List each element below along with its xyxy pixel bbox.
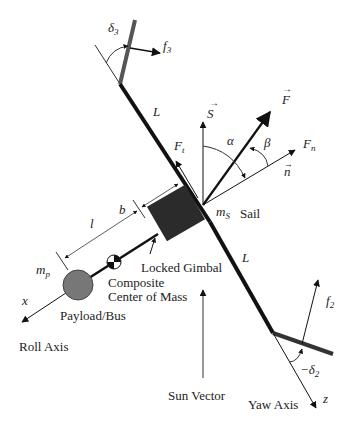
locked-gimbal-label: Locked Gimbal <box>141 260 223 275</box>
b-tick-line <box>133 200 145 218</box>
locked-gimbal-pointer <box>150 238 155 254</box>
ft-label: Ft <box>173 138 185 155</box>
s-vector-label: S <box>207 106 214 121</box>
fn-vector-arrow <box>203 150 295 205</box>
payload-bus-mass <box>63 270 93 300</box>
beta-arc <box>250 148 268 166</box>
composite-label-line2: Center of Mass <box>108 289 187 304</box>
sun-vector-label: Sun Vector <box>168 388 226 403</box>
fn-label: Fn <box>302 136 316 153</box>
b-label: b <box>119 202 126 217</box>
l-dimension-arrow <box>65 211 137 258</box>
f2-label: f2 <box>326 293 335 310</box>
delta3-label: δ3 <box>108 20 119 37</box>
f-vector-overarrow: → <box>282 83 292 94</box>
composite-label-line1: Composite <box>108 275 165 290</box>
l-lower-label: L <box>241 250 249 265</box>
sail-dynamics-diagram: δ3 f3 L S → F → Ft α β Fn n → b l mS Sai… <box>0 0 352 424</box>
yaw-axis-label: Yaw Axis <box>248 397 298 412</box>
locked-gimbal-block <box>147 185 205 242</box>
neg-delta2-label: −δ2 <box>300 362 320 379</box>
l-tick-line <box>56 252 68 270</box>
lower-control-vane <box>273 333 333 354</box>
z-axis-label: z <box>322 391 328 406</box>
s-vector-overarrow: → <box>209 97 219 108</box>
beta-label: β <box>263 135 271 150</box>
n-vector-overarrow: → <box>284 159 293 169</box>
composite-center-of-mass-icon <box>107 255 121 269</box>
f-vector-label: F <box>281 92 291 107</box>
mp-label: mp <box>36 262 50 279</box>
roll-axis-label: Roll Axis <box>19 339 69 354</box>
f3-label: f3 <box>163 38 172 55</box>
delta2-arc <box>289 349 302 362</box>
l-label: l <box>90 216 94 231</box>
f-vector-arrow <box>203 112 270 205</box>
x-axis-label: x <box>21 293 28 308</box>
alpha-label: α <box>227 133 235 148</box>
alpha-arc <box>203 146 245 178</box>
f3-arrow <box>130 48 160 53</box>
upper-vane-reference-line <box>95 45 120 84</box>
f2-arrow <box>302 280 318 344</box>
lower-boom <box>210 222 273 333</box>
ms-label: mS <box>216 204 230 221</box>
sail-label: Sail <box>240 206 261 221</box>
l-upper-label: L <box>152 104 160 119</box>
upper-control-vane <box>120 20 135 84</box>
payload-bus-label: Payload/Bus <box>60 308 126 323</box>
